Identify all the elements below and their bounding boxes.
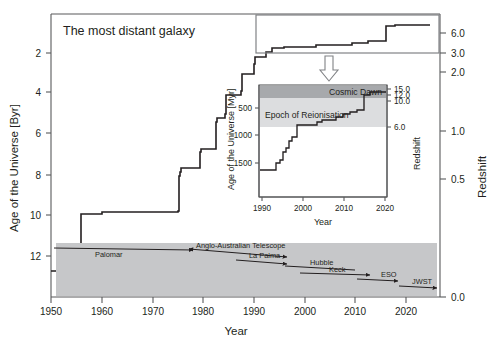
page-title: The most distant galaxy (63, 24, 196, 38)
z-tick-label: 2.0 (451, 67, 465, 78)
y-tick-label: 4 (35, 87, 41, 98)
x-tick-label: 1970 (142, 306, 165, 317)
z-tick-label: 3.0 (451, 48, 465, 59)
main-y-axis-right-title: Redshift (476, 155, 488, 198)
telescope-label: Anglo-Australian Telescope (196, 241, 285, 250)
main-x-ticks: 1950 1960 1970 1980 1990 2000 2010 2020 (40, 297, 418, 317)
y-tick-label: 10 (30, 210, 42, 221)
inset-x-axis-title: Year (314, 217, 332, 227)
inset-x-tick-label: 2000 (294, 204, 313, 213)
x-tick-label: 2010 (344, 306, 367, 317)
telescope-timeline-band: Palomar Anglo-Australian Telescope La Pa… (54, 241, 437, 296)
z-tick-label: 0.5 (451, 174, 465, 185)
main-y-right-ticks: 6.0 3.0 2.0 1.0 0.5 0.0 (440, 28, 465, 303)
telescope-label: Keck (329, 265, 346, 274)
y-tick-label: 6 (35, 128, 41, 139)
telescope-label: Palomar (95, 250, 123, 259)
main-y-left-ticks: 2 4 6 8 10 12 (30, 48, 51, 262)
inset-x-tick-label: 1990 (253, 204, 272, 213)
x-tick-label: 1950 (40, 306, 63, 317)
x-tick-label: 1960 (91, 306, 114, 317)
z-tick-label: 0.0 (451, 292, 465, 303)
main-x-axis-title: Year (224, 325, 247, 337)
y-tick-label: 8 (35, 170, 41, 181)
inset-y-axis-left-title: Age of the Universe [Myr] (226, 88, 236, 190)
z-tick-label: 1.0 (451, 126, 465, 137)
figure-root: The most distant galaxy 2 4 6 8 10 12 Ag… (0, 0, 490, 341)
z-tick-label: 6.0 (451, 28, 465, 39)
main-y-axis-left-title: Age of the Universe [Byr] (8, 104, 20, 232)
inset-x-ticks: 1990 2000 2010 2020 (253, 197, 395, 213)
x-tick-label: 2000 (294, 306, 317, 317)
inset-y-left-ticks: 500 1000 1500 (234, 104, 259, 168)
inset-x-tick-label: 2020 (376, 204, 395, 213)
x-tick-label: 2020 (395, 306, 418, 317)
inset-y-tick-label: 1500 (234, 159, 253, 168)
callout-down-arrow (320, 56, 338, 81)
inset-y-right-ticks: 15.0 12.0 10.0 6.0 (387, 85, 410, 132)
inset-y-tick-label: 1000 (234, 131, 253, 140)
figure-svg: The most distant galaxy 2 4 6 8 10 12 Ag… (0, 0, 490, 341)
telescope-label: La Palma (249, 251, 281, 260)
telescope-label: ESO (381, 270, 397, 279)
inset-z-tick-label: 10.0 (394, 97, 410, 106)
x-tick-label: 1980 (192, 306, 215, 317)
y-tick-label: 2 (35, 48, 41, 59)
telescope-label: JWST (412, 277, 433, 286)
inset-z-tick-label: 6.0 (394, 123, 406, 132)
inset-panel: Cosmic Dawn Epoch of Reionisation 500 10… (226, 85, 422, 227)
y-tick-label: 12 (30, 251, 42, 262)
x-tick-label: 1990 (243, 306, 266, 317)
inset-y-tick-label: 500 (238, 104, 252, 113)
inset-x-tick-label: 2010 (335, 204, 354, 213)
inset-y-axis-right-title: Redshift (412, 136, 422, 170)
